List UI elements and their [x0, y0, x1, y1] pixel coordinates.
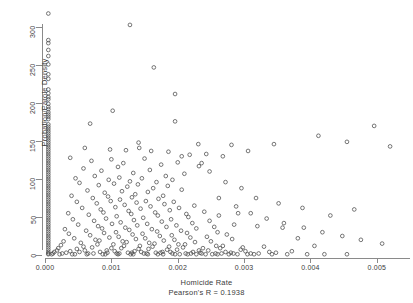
data-point	[188, 153, 192, 157]
data-point	[317, 134, 321, 138]
data-point	[131, 171, 135, 175]
data-point	[70, 252, 74, 256]
data-point	[224, 250, 228, 254]
data-point	[125, 240, 129, 244]
data-point	[71, 217, 75, 221]
data-point	[272, 142, 276, 146]
data-point	[110, 246, 114, 250]
data-point	[63, 227, 67, 231]
data-point	[90, 159, 94, 163]
data-point	[175, 224, 179, 228]
data-point	[214, 244, 218, 248]
data-point	[117, 176, 121, 180]
data-point	[168, 208, 172, 212]
data-point	[193, 240, 197, 244]
data-point	[96, 243, 100, 247]
data-point	[102, 231, 106, 235]
data-point	[194, 227, 198, 231]
data-point	[112, 243, 116, 247]
data-point	[285, 252, 289, 256]
data-point	[100, 227, 104, 231]
data-point	[123, 226, 127, 230]
data-point	[75, 200, 79, 204]
data-point	[117, 235, 121, 239]
data-point	[82, 167, 86, 171]
data-point	[262, 245, 266, 249]
data-point	[139, 207, 143, 211]
data-point	[173, 120, 177, 124]
data-point	[165, 248, 169, 252]
data-point	[388, 145, 392, 149]
data-point	[166, 184, 170, 188]
scatter-plot-figure: 050100150200250300 0.0000.0010.0020.0030…	[0, 0, 413, 303]
data-point	[302, 226, 306, 230]
data-point	[146, 190, 150, 194]
data-point	[149, 205, 153, 209]
data-point	[155, 180, 159, 184]
data-point	[217, 196, 221, 200]
data-point	[165, 225, 169, 229]
data-point	[107, 178, 111, 182]
data-point	[277, 202, 281, 206]
data-point	[135, 201, 139, 205]
data-point	[164, 174, 168, 178]
data-point	[265, 217, 269, 221]
data-point	[152, 66, 156, 70]
data-point	[205, 235, 209, 239]
data-point	[187, 215, 191, 219]
data-point	[147, 241, 151, 245]
data-point	[217, 214, 221, 218]
data-point	[120, 189, 124, 193]
data-point	[159, 163, 163, 167]
data-point	[103, 191, 107, 195]
data-point	[111, 109, 115, 113]
data-point	[167, 150, 171, 154]
data-point	[133, 192, 137, 196]
data-point	[78, 181, 82, 185]
data-point	[150, 227, 154, 231]
data-point	[151, 245, 155, 249]
data-point	[46, 48, 50, 52]
data-point	[208, 170, 212, 174]
data-point	[236, 211, 240, 215]
data-point	[46, 117, 50, 121]
data-point	[86, 189, 90, 193]
data-point	[127, 228, 131, 232]
data-point	[192, 204, 196, 208]
data-point	[151, 186, 155, 190]
data-point	[119, 246, 123, 250]
data-point	[66, 211, 70, 215]
data-point	[97, 183, 101, 187]
data-point	[180, 188, 184, 192]
data-point	[116, 165, 120, 169]
data-point	[119, 221, 123, 225]
data-point	[108, 148, 112, 152]
data-point	[114, 230, 118, 234]
data-point	[141, 216, 145, 220]
data-point	[84, 229, 88, 233]
data-point	[98, 239, 102, 243]
data-point	[123, 203, 127, 207]
data-point	[380, 242, 384, 246]
data-point	[200, 161, 204, 165]
data-point	[257, 252, 261, 256]
data-point	[190, 221, 194, 225]
data-point	[131, 233, 135, 237]
data-point	[115, 214, 119, 218]
data-point	[204, 152, 208, 156]
data-point	[301, 206, 305, 210]
data-point	[95, 202, 99, 206]
data-point	[88, 233, 92, 237]
data-point	[359, 238, 363, 242]
data-point	[329, 214, 333, 218]
data-point	[181, 246, 185, 250]
data-point	[128, 179, 132, 183]
data-point	[90, 246, 94, 250]
data-point	[109, 199, 113, 203]
data-point	[176, 161, 180, 165]
data-point	[230, 237, 234, 241]
data-point	[202, 210, 206, 214]
data-point	[194, 252, 198, 256]
data-point	[296, 236, 300, 240]
data-point	[144, 199, 148, 203]
